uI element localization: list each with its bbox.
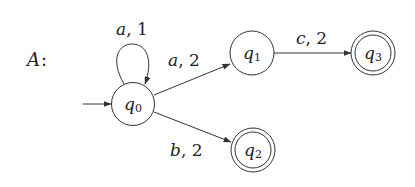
automaton-name-colon: : bbox=[41, 49, 47, 70]
state-q1: q1 bbox=[230, 31, 274, 75]
automaton-diagram: A : a, 1 a, 2 b, 2 c, 2 q0 q1 q2 bbox=[0, 0, 415, 187]
state-q0: q0 bbox=[112, 83, 155, 126]
transition-q0-q1: a, 2 bbox=[154, 50, 230, 95]
automaton-name: A bbox=[25, 49, 40, 70]
edge-line bbox=[154, 112, 231, 142]
automaton-name-label: A : bbox=[25, 49, 47, 70]
self-loop-edge bbox=[117, 44, 149, 84]
state-q2: q2 bbox=[231, 128, 275, 172]
edge-label: a, 1 bbox=[116, 19, 148, 39]
state-q3: q3 bbox=[351, 31, 395, 75]
edge-label: b, 2 bbox=[170, 140, 203, 160]
transition-q1-q3: c, 2 bbox=[274, 28, 351, 53]
transition-q0-q0: a, 1 bbox=[116, 19, 149, 84]
edge-label: c, 2 bbox=[296, 28, 327, 48]
edge-label: a, 2 bbox=[168, 50, 200, 70]
transition-q0-q2: b, 2 bbox=[154, 112, 231, 160]
